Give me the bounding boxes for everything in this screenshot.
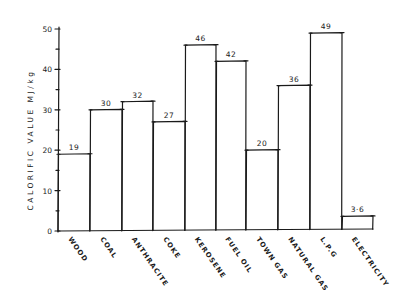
bar-value-label: 20 [257,139,268,148]
x-axis-labels: WOODCOALANTHRACITECOKEKEROSENEFUEL OILTO… [66,236,390,293]
bar-value-label: 49 [321,22,332,31]
bar-value-label: 19 [69,143,80,152]
x-category-label: WOOD [66,236,89,264]
bar-value-label: 3·6 [351,205,364,214]
bar-fuel-oil: 42 [215,50,248,230]
x-category-label: COAL [98,236,118,260]
bar-value-label: 30 [101,99,112,108]
bar-natural-gas: 36 [277,75,312,230]
bar-electricity: 3·6 [341,205,375,229]
bar-value-label: 27 [164,111,175,120]
y-tick-label: 10 [42,187,52,196]
bar-coal: 30 [89,99,124,231]
y-axis: 01020304050 [42,25,373,236]
x-category-label: FUEL OIL [223,236,254,275]
bar-value-label: 36 [289,75,300,84]
bar-anthracite: 32 [121,91,155,231]
bar-kerosene: 46 [184,34,218,230]
x-category-label: ELECTRICITY [350,236,390,289]
y-tick-label: 0 [47,227,52,236]
bar-value-label: 46 [195,34,206,43]
bars: 1930322746422036493·6 [57,22,375,231]
x-category-label: L.P.G [318,236,338,260]
y-axis-title: CALORIFIC VALUE MJ/kg [26,70,35,211]
y-tick-label: 50 [42,25,52,34]
calorific-value-bar-chart: 01020304050 1930322746422036493·6 WOODCO… [0,0,403,295]
x-category-label: COKE [161,236,182,261]
bar-value-label: 42 [226,50,237,59]
bar-wood: 19 [57,143,92,231]
y-tick-label: 40 [42,65,52,74]
x-category-label: KEROSENE [193,236,228,281]
y-tick-label: 30 [42,106,52,115]
bar-value-label: 32 [132,91,143,100]
bar-l-p-g: 49 [309,22,344,229]
bar-town-gas: 20 [245,139,280,230]
bar-coke: 27 [152,111,187,230]
x-category-label: TOWN GAS [254,236,289,281]
y-tick-label: 20 [42,146,52,155]
